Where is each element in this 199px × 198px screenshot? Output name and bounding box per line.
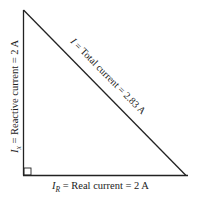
right-angle-marker	[24, 168, 31, 175]
total-current-hypotenuse	[24, 10, 187, 176]
real-current-label: IR = Real current = 2 A	[51, 180, 149, 194]
current-triangle-diagram: Ix = Reactive current = 2 A I = Total cu…	[0, 0, 199, 198]
total-current-label: I = Total current = 2.83 A	[68, 35, 149, 117]
reactive-current-label: Ix = Reactive current = 2 A	[9, 39, 23, 154]
